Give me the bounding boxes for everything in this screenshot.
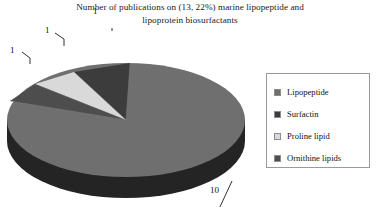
data-label-proline: 1 — [45, 26, 50, 35]
chart-legend: Lipopeptide Surfactin Proline lipid Orni… — [266, 73, 370, 168]
legend-swatch-ornithine-lipids — [274, 155, 281, 162]
legend-label-lipopeptide: Lipopeptide — [287, 88, 329, 97]
leader-line-proline — [55, 33, 64, 46]
pie-svg — [0, 28, 252, 207]
leader-line-surfactin — [104, 28, 112, 31]
legend-item-surfactin[interactable]: Surfactin — [267, 103, 369, 125]
chart-title-line-1: Number of publications on (13, 22%) mari… — [20, 1, 360, 14]
pie-chart-figure: Number of publications on (13, 22%) mari… — [0, 0, 378, 207]
pie-plot-area — [0, 28, 252, 207]
legend-item-proline-lipid[interactable]: Proline lipid — [267, 125, 369, 147]
data-label-surfactin: 1 — [93, 7, 98, 16]
legend-item-ornithine-lipids[interactable]: Ornithine lipids — [267, 147, 369, 169]
leader-line-ornithine — [22, 52, 30, 64]
data-label-lipopeptide: 10 — [210, 186, 219, 195]
leader-line-lipopeptide — [219, 181, 232, 207]
legend-label-ornithine-lipids: Ornithine lipids — [287, 154, 341, 163]
chart-title: Number of publications on (13, 22%) mari… — [20, 1, 360, 26]
data-label-ornithine: 1 — [10, 46, 15, 55]
chart-title-line-2: lipoprotein biosurfactants — [20, 14, 360, 27]
legend-item-lipopeptide[interactable]: Lipopeptide — [267, 81, 369, 103]
legend-swatch-lipopeptide — [274, 89, 281, 96]
legend-swatch-proline-lipid — [274, 133, 281, 140]
legend-label-proline-lipid: Proline lipid — [287, 132, 330, 141]
legend-label-surfactin: Surfactin — [287, 110, 319, 119]
legend-swatch-surfactin — [274, 111, 281, 118]
